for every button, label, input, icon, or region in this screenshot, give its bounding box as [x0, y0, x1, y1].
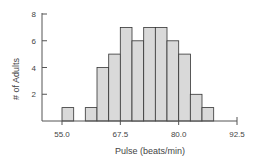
histogram-bar: [120, 27, 132, 121]
y-tick-label: 4: [32, 64, 37, 73]
histogram-bar: [85, 108, 97, 121]
x-tick-label: 55.0: [54, 130, 70, 139]
histogram-chart: 2468 55.067.580.092.5 # of Adults Pulse …: [0, 0, 261, 163]
x-tick-label: 67.5: [113, 130, 129, 139]
histogram-bar: [62, 108, 74, 121]
histogram-bar: [97, 68, 109, 122]
x-tick-label: 92.5: [229, 130, 245, 139]
histogram-bar: [144, 27, 156, 121]
histogram-bar: [132, 41, 144, 121]
x-tick-label: 80.0: [171, 130, 187, 139]
y-axis-label: # of Adults: [11, 57, 21, 100]
histogram-bar: [202, 108, 214, 121]
histogram-bar: [167, 41, 179, 121]
y-tick-label: 2: [32, 90, 37, 99]
histogram-bar: [190, 94, 202, 121]
y-axis-ticks: 2468: [32, 10, 47, 99]
histogram-bar: [155, 27, 167, 121]
histogram-bar: [109, 54, 121, 121]
y-tick-label: 6: [32, 37, 37, 46]
histogram-bar: [179, 54, 191, 121]
x-axis-label: Pulse (beats/min): [115, 146, 185, 156]
histogram-bars: [62, 27, 214, 121]
y-tick-label: 8: [32, 10, 37, 19]
